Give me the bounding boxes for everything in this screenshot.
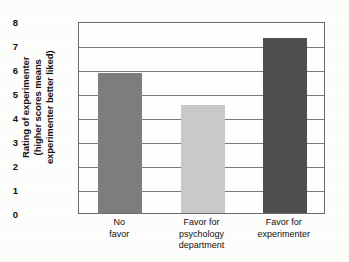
x-category-label-line: Favor for <box>243 217 325 229</box>
x-category-label: Nofavor <box>78 217 160 240</box>
x-category-label-line: favor <box>78 229 160 241</box>
y-tick-label: 3 <box>4 137 18 148</box>
bar <box>98 73 142 213</box>
y-tick-label: 2 <box>4 161 18 172</box>
x-category-label-line: Favor for <box>160 217 242 229</box>
y-tick-label: 4 <box>4 113 18 124</box>
y-tick-label: 6 <box>4 65 18 76</box>
x-category-label: Favor forpsychologydepartment <box>160 217 242 252</box>
y-axis-title-line-2: (higher scores means <box>33 50 45 164</box>
y-tick-label: 5 <box>4 89 18 100</box>
x-category-label-line: No <box>78 217 160 229</box>
x-category-label: Favor forexperimenter <box>243 217 325 240</box>
x-axis-labels: NofavorFavor forpsychologydepartmentFavo… <box>78 217 325 262</box>
x-category-label-line: department <box>160 240 242 252</box>
bar <box>263 38 307 213</box>
bar <box>181 105 225 213</box>
y-axis-title-line-3: experimenter better liked) <box>45 50 57 164</box>
bar-chart-figure: Rating of experimenter (higher scores me… <box>0 0 349 262</box>
plot-area <box>78 22 325 214</box>
y-tick-label: 1 <box>4 185 18 196</box>
y-tick-label: 0 <box>4 209 18 220</box>
x-category-label-line: psychology <box>160 229 242 241</box>
y-tick-label: 8 <box>4 17 18 28</box>
y-axis-title-line-1: Rating of experimenter <box>21 50 33 164</box>
x-category-label-line: experimenter <box>243 229 325 241</box>
y-axis-title: Rating of experimenter (higher scores me… <box>0 0 78 214</box>
y-tick-label: 7 <box>4 41 18 52</box>
